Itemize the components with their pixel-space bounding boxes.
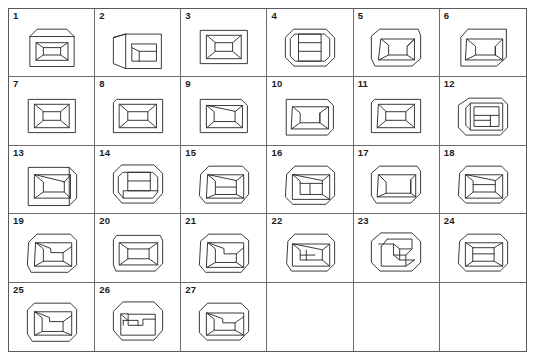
figure-number: 12 [444, 78, 455, 90]
octagon-box-inner-rect-split-icon [193, 160, 255, 208]
figure-drawing-5 [354, 20, 439, 74]
frame-recessed-pyramid-inner-rect-wide-icon [107, 92, 169, 140]
figure-cell: 7 [9, 77, 95, 145]
figure-drawing-16 [267, 157, 352, 211]
figure-drawing-7 [9, 88, 94, 142]
box-oblique-right-inner-rect-icon [21, 160, 83, 208]
figure-drawing-26 [95, 294, 180, 349]
figure-drawing-3 [181, 20, 266, 74]
figure-cell: 14 [95, 146, 181, 214]
figure-drawing-2 [95, 20, 180, 74]
box-chamfered-inner-rect-right-panel-icon [452, 23, 514, 71]
figure-cell: 1 [9, 9, 95, 77]
box-chamfered-spiral-l-shape-icon [21, 228, 83, 276]
figure-number: 19 [13, 215, 24, 227]
figure-number: 20 [99, 215, 110, 227]
figure-drawing-15 [181, 157, 266, 211]
figure-drawing-10 [267, 88, 352, 142]
figure-cell: 23 [354, 214, 440, 282]
figure-cell: 27 [181, 283, 267, 351]
figure-drawing-17 [354, 157, 439, 211]
box-chamfered-inner-l-notch-icon [365, 23, 427, 71]
figure-drawing-27 [181, 294, 266, 349]
figure-number: 8 [99, 78, 104, 90]
figure-cell: 18 [440, 146, 526, 214]
frame-recessed-pyramid-inner-rect-icon [365, 92, 427, 140]
box-chamfered-spiral-l-shape-icon [21, 297, 83, 345]
figure-drawing-19 [9, 225, 94, 279]
figure-drawing-6 [440, 20, 526, 74]
frame-recessed-pyramid-inner-rect-icon [21, 92, 83, 140]
figure-cell: 21 [181, 214, 267, 282]
figure-cell: 2 [95, 9, 181, 77]
figure-number: 16 [271, 147, 282, 159]
figure-drawing-22 [267, 225, 352, 279]
figure-cell: 12 [440, 77, 526, 145]
figure-number: 26 [99, 284, 110, 296]
figure-number: 17 [358, 147, 369, 159]
box-chamfered-inner-trapezoid-icon [365, 160, 427, 208]
figure-cell: 6 [440, 9, 526, 77]
figure-drawing-24 [440, 225, 526, 279]
figure-number: 22 [271, 215, 282, 227]
figure-number: 27 [185, 284, 196, 296]
figure-cell: 24 [440, 214, 526, 282]
figure-cell: 5 [354, 9, 440, 77]
figure-number: 21 [185, 215, 196, 227]
box-chamfered-inner-l-notch-icon [279, 92, 341, 140]
figure-cell-empty [354, 283, 440, 351]
figure-cell: 17 [354, 146, 440, 214]
figure-drawing-21 [181, 225, 266, 279]
figure-drawing-25 [9, 294, 94, 349]
octagon-box-spiral-l-shape-icon [193, 228, 255, 276]
figure-plate: 1 2 [8, 8, 527, 352]
figure-number: 3 [185, 10, 190, 22]
figure-drawing-11 [354, 88, 439, 142]
figure-number: 7 [13, 78, 18, 90]
figure-number: 18 [444, 147, 455, 159]
figure-number: 4 [271, 10, 276, 22]
figure-drawing-20 [95, 225, 180, 279]
figure-number: 6 [444, 10, 449, 22]
frame-recessed-pyramid-inner-rect-icon [193, 23, 255, 71]
figure-cell: 10 [267, 77, 353, 145]
figure-cell: 19 [9, 214, 95, 282]
figure-cell: 16 [267, 146, 353, 214]
figure-number: 15 [185, 147, 196, 159]
figure-drawing-14 [95, 157, 180, 211]
box-chamfered-nested-rect-icon [107, 228, 169, 276]
figure-cell: 11 [354, 77, 440, 145]
octagon-box-inner-square-divider-icon [279, 160, 341, 208]
octagon-box-spiral-l-shape-icon [193, 297, 255, 345]
octagon-box-inner-rect-bar-icon [452, 160, 514, 208]
octagon-frame-inner-rect-split-icon [107, 160, 169, 208]
figure-number: 24 [444, 215, 455, 227]
figure-number: 2 [99, 10, 104, 22]
box-chamfered-inner-narrow-bar-icon [279, 228, 341, 276]
figure-cell: 15 [181, 146, 267, 214]
octagon-box-inner-rect-bands-icon [452, 228, 514, 276]
octagon-frame-three-horizontal-bands-icon [279, 23, 341, 71]
box-front-chamfered-top-inner-rect-icon [21, 23, 83, 71]
figure-cell-empty [440, 283, 526, 351]
figure-drawing-8 [95, 88, 180, 142]
figure-number: 5 [358, 10, 363, 22]
box-oblique-left-inner-rect-icon [107, 23, 169, 71]
figure-drawing-9 [181, 88, 266, 142]
figure-drawing-23 [354, 225, 439, 279]
figure-number: 9 [185, 78, 190, 90]
figure-cell: 8 [95, 77, 181, 145]
box-oblique-left-three-bands-icon [452, 92, 514, 140]
octagon-box-inner-bar-spiral-icon [107, 297, 169, 345]
figure-drawing-13 [9, 157, 94, 211]
figure-cell: 26 [95, 283, 181, 351]
figure-cell: 20 [95, 214, 181, 282]
figure-cell: 4 [267, 9, 353, 77]
figure-cell: 9 [181, 77, 267, 145]
figure-cell: 22 [267, 214, 353, 282]
figure-number: 11 [358, 78, 368, 90]
figure-number: 25 [13, 284, 24, 296]
figure-cell: 3 [181, 9, 267, 77]
figure-number: 10 [271, 78, 282, 90]
figure-number: 1 [13, 10, 18, 22]
